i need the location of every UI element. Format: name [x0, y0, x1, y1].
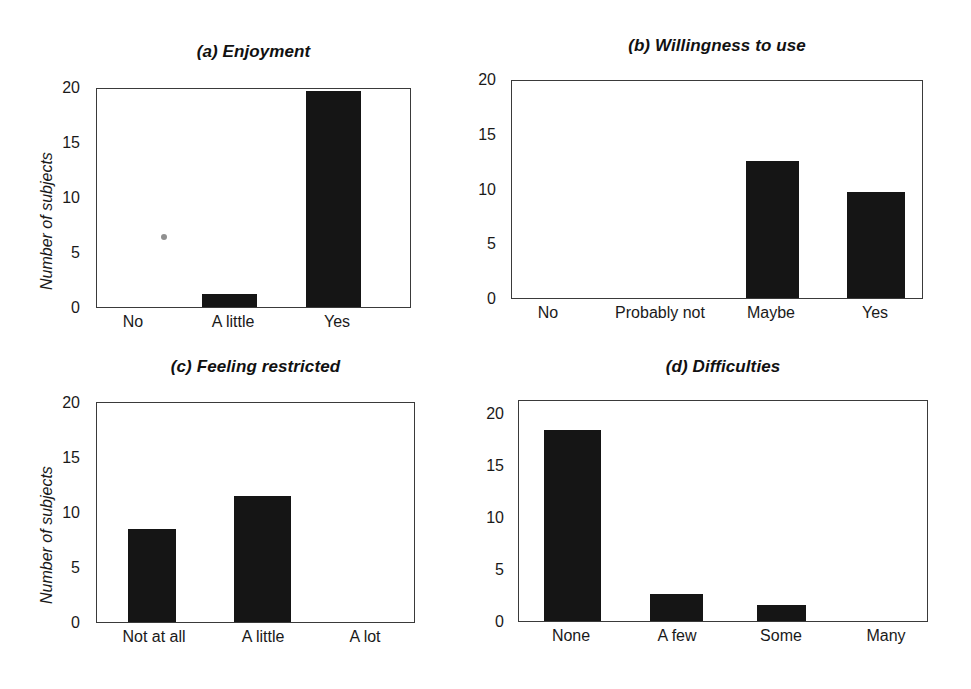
panel-c-bar-not-at-all [128, 529, 176, 622]
panel-c-y-axis-label: Number of subjects [38, 466, 56, 604]
panel-c-ytick-15: 15 [42, 449, 80, 467]
panel-a-ytick-20: 20 [42, 79, 80, 97]
panel-a-ytick-10: 10 [42, 189, 80, 207]
panel-c-ytick-0: 0 [42, 614, 80, 632]
panel-c-plot-area [96, 402, 415, 623]
panel-c-bar-a-little [234, 496, 291, 622]
panel-d-bar-none [544, 430, 601, 621]
panel-d-xtick-many: Many [833, 627, 939, 645]
panel-b-xtick-no: No [495, 304, 601, 322]
panel-a-ytick-5: 5 [42, 244, 80, 262]
panel-b-ytick-10: 10 [458, 181, 496, 199]
panel-d-ytick-0: 0 [466, 613, 504, 631]
panel-d-xtick-none: None [518, 627, 624, 645]
panel-c-ytick-20: 20 [42, 394, 80, 412]
panel-c-xtick-a-lot: A lot [312, 628, 418, 646]
panel-a-xtick-yes: Yes [284, 313, 390, 331]
panel-d-bar-a-few [650, 594, 703, 621]
panel-a-ytick-0: 0 [42, 299, 80, 317]
panel-b-plot-area [511, 80, 923, 299]
panel-a-bar-yes [306, 91, 361, 307]
panel-a-title: (a) Enjoyment [96, 42, 411, 62]
panel-b-bar-maybe [746, 161, 799, 298]
panel-a-y-axis-label: Number of subjects [38, 152, 56, 290]
panel-d-ytick-20: 20 [466, 405, 504, 423]
panel-d-ytick-10: 10 [466, 509, 504, 527]
panel-b-xtick-maybe: Maybe [718, 304, 824, 322]
panel-b-xtick-yes: Yes [822, 304, 928, 322]
panel-d-xtick-a-few: A few [624, 627, 730, 645]
figure-canvas: (a) Enjoyment Number of subjects 0 5 10 … [0, 0, 971, 689]
panel-a-bar-a-little [202, 294, 257, 307]
panel-a-plot-area [96, 88, 411, 308]
panel-b-ytick-0: 0 [458, 290, 496, 308]
panel-b-ytick-20: 20 [458, 71, 496, 89]
panel-b-ytick-15: 15 [458, 126, 496, 144]
panel-d-plot-area [518, 400, 928, 622]
panel-c-ytick-5: 5 [42, 559, 80, 577]
panel-d-title: (d) Difficulties [518, 357, 928, 377]
panel-a-xtick-a-little: A little [180, 313, 286, 331]
panel-b-title: (b) Willingness to use [511, 36, 923, 56]
panel-d-bar-some [757, 605, 806, 621]
panel-a-xtick-no: No [80, 313, 186, 331]
panel-d-ytick-15: 15 [466, 457, 504, 475]
panel-c-xtick-a-little: A little [208, 628, 318, 646]
speck-artifact-icon [161, 234, 167, 240]
panel-b-bar-yes [847, 192, 905, 298]
panel-a-ytick-15: 15 [42, 134, 80, 152]
panel-b-ytick-5: 5 [458, 235, 496, 253]
panel-c-title: (c) Feeling restricted [96, 357, 415, 377]
panel-d-ytick-5: 5 [466, 561, 504, 579]
panel-d-xtick-some: Some [728, 627, 834, 645]
panel-c-xtick-not-at-all: Not at all [98, 628, 210, 646]
panel-c-ytick-10: 10 [42, 504, 80, 522]
panel-b-xtick-probably-not: Probably not [597, 304, 723, 322]
